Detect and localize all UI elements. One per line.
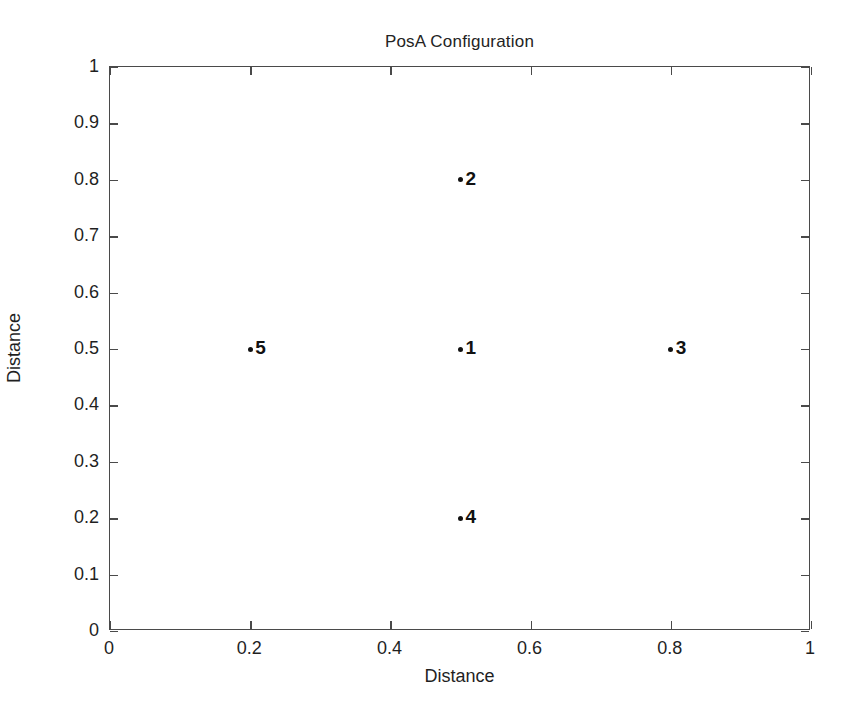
y-tick-mark-right: [801, 293, 809, 294]
x-tick-mark-top: [531, 67, 532, 75]
y-tick-mark-right: [801, 180, 809, 181]
y-tick-mark: [110, 349, 118, 350]
y-tick-label: 0.8: [74, 168, 99, 189]
x-tick-mark: [250, 621, 251, 629]
y-tick-mark: [110, 180, 118, 181]
scatter-plot-figure: PosA Configuration 12345 00.20.40.60.81 …: [0, 0, 847, 717]
y-tick-label: 1: [89, 56, 99, 77]
y-tick-label: 0.7: [74, 225, 99, 246]
x-tick-mark-top: [811, 67, 812, 75]
y-tick-mark: [110, 518, 118, 519]
y-tick-label: 0.9: [74, 112, 99, 133]
data-point-label: 4: [466, 507, 477, 526]
y-tick-label: 0: [89, 620, 99, 641]
x-tick-label: 0.6: [517, 638, 542, 659]
y-tick-mark-right: [801, 123, 809, 124]
y-tick-mark: [110, 236, 118, 237]
y-tick-mark-right: [801, 462, 809, 463]
data-point-marker: [458, 516, 463, 521]
data-point-label: 5: [255, 338, 266, 357]
y-tick-label: 0.5: [74, 338, 99, 359]
data-point-marker: [248, 347, 253, 352]
x-axis-label: Distance: [109, 666, 810, 687]
x-tick-label: 0: [104, 638, 114, 659]
x-tick-mark: [110, 621, 111, 629]
data-point-marker: [458, 347, 463, 352]
y-tick-mark: [110, 293, 118, 294]
x-tick-mark: [671, 621, 672, 629]
x-tick-label: 0.4: [377, 638, 402, 659]
x-tick-mark: [811, 621, 812, 629]
y-tick-mark-right: [801, 236, 809, 237]
data-point-label: 2: [466, 169, 477, 188]
y-tick-mark-right: [801, 405, 809, 406]
data-point-marker: [458, 177, 463, 182]
y-tick-mark: [110, 405, 118, 406]
x-tick-label: 0.8: [657, 638, 682, 659]
y-axis-label: Distance: [4, 313, 25, 383]
chart-title: PosA Configuration: [109, 32, 810, 52]
data-point-label: 3: [676, 338, 687, 357]
y-tick-mark-right: [801, 67, 809, 68]
x-tick-mark: [390, 621, 391, 629]
x-tick-label: 0.2: [237, 638, 262, 659]
x-tick-label: 1: [805, 638, 815, 659]
data-point-marker: [668, 347, 673, 352]
x-tick-mark-top: [250, 67, 251, 75]
y-tick-label: 0.4: [74, 394, 99, 415]
plot-area: 12345: [109, 66, 810, 630]
y-tick-label: 0.2: [74, 507, 99, 528]
y-tick-mark: [110, 631, 118, 632]
y-tick-label: 0.1: [74, 563, 99, 584]
y-tick-mark: [110, 462, 118, 463]
y-tick-label: 0.3: [74, 450, 99, 471]
y-tick-mark-right: [801, 518, 809, 519]
y-tick-mark: [110, 575, 118, 576]
y-tick-label: 0.6: [74, 281, 99, 302]
x-tick-mark: [531, 621, 532, 629]
y-tick-mark-right: [801, 349, 809, 350]
y-tick-mark-right: [801, 631, 809, 632]
data-point-label: 1: [466, 338, 477, 357]
y-tick-mark: [110, 67, 118, 68]
y-tick-mark-right: [801, 575, 809, 576]
x-tick-mark-top: [671, 67, 672, 75]
y-tick-mark: [110, 123, 118, 124]
x-tick-mark-top: [390, 67, 391, 75]
